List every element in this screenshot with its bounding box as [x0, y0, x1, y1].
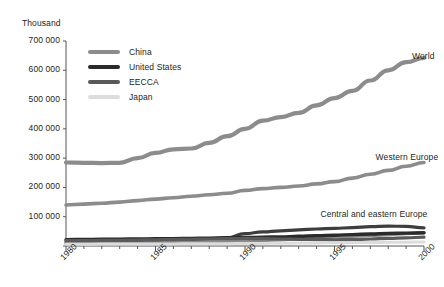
y-tick-label: 300 000 — [10, 152, 60, 162]
legend-swatch-icon — [88, 80, 120, 84]
y-tick-label: 400 000 — [10, 123, 60, 133]
y-tick-label: 100 000 — [10, 211, 60, 221]
legend-swatch-icon — [88, 95, 120, 99]
legend-label: EECCA — [129, 77, 159, 87]
y-tick-label: 500 000 — [10, 94, 60, 104]
series-annotation: Central and eastern Europe — [320, 209, 427, 219]
y-tick-label: 600 000 — [10, 64, 60, 74]
series-annotation: Western Europe — [376, 152, 439, 162]
series-annotation: World — [412, 51, 435, 61]
plot-area — [0, 0, 444, 287]
legend-item-united-states[interactable]: United States — [88, 59, 181, 74]
y-tick-label: 200 000 — [10, 181, 60, 191]
legend-item-japan[interactable]: Japan — [88, 89, 181, 104]
legend-label: China — [129, 47, 152, 57]
legend-swatch-icon — [88, 65, 120, 69]
chart-legend: ChinaUnited StatesEECCAJapan — [88, 44, 181, 104]
legend-item-eecca[interactable]: EECCA — [88, 74, 181, 89]
legend-label: United States — [129, 62, 181, 72]
legend-label: Japan — [129, 92, 153, 102]
legend-item-china[interactable]: China — [88, 44, 181, 59]
y-tick-label: 700 000 — [10, 35, 60, 45]
legend-swatch-icon — [88, 50, 120, 54]
line-chart: Thousand 100 000200 000300 000400 000500… — [0, 0, 444, 287]
